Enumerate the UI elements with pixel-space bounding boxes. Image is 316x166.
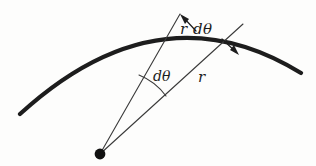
radius-label: r: [198, 70, 205, 85]
left-radius-line: [100, 14, 180, 154]
right-radius-line: [100, 24, 243, 154]
arc-length-label: r dθ: [180, 22, 213, 37]
arc-length-diagram: r dθ dθ r: [0, 0, 316, 166]
vertex-dot: [95, 149, 106, 160]
angle-label: dθ: [153, 69, 170, 83]
